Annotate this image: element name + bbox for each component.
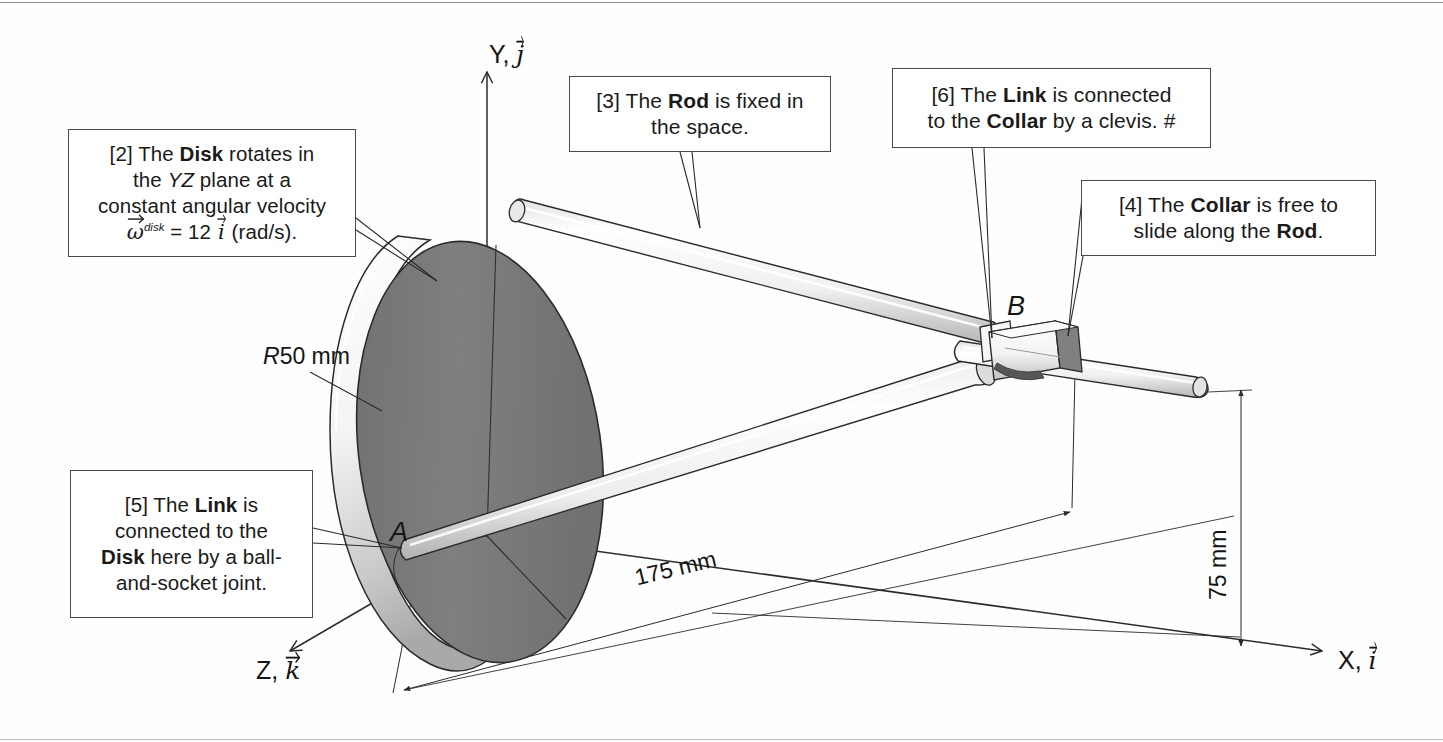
callout-5-line-1: [5] The Link is xyxy=(125,492,258,518)
axis-label-z: Z, k xyxy=(256,656,300,685)
i-glyph: i xyxy=(217,220,226,244)
callout-4-line-1: [4] The Collar is free to xyxy=(1119,192,1338,218)
callout-2-line-3: constant angular velocity xyxy=(98,193,326,219)
callout-6-line-2: to the Collar by a clevis. # xyxy=(928,108,1176,134)
dim-75-value: 75 xyxy=(1205,574,1231,600)
j-glyph: j xyxy=(516,40,524,69)
omega-vector-symbol: ω xyxy=(127,219,144,245)
callout-3-line-1: [3] The Rod is fixed in xyxy=(596,88,803,114)
callout-4-line-2-pre: slide along the xyxy=(1134,219,1277,242)
callout-5-line-1-post: is xyxy=(237,493,258,516)
point-label-b: B xyxy=(1007,291,1025,322)
axis-z-comma: , xyxy=(271,656,285,684)
k-unit-vector-symbol: k xyxy=(285,656,300,685)
callout-5-term-link: Link xyxy=(195,493,238,516)
radius-prefix: R xyxy=(263,343,280,369)
callout-5-line-3-post: here by a ball- xyxy=(145,545,282,568)
callout-6-line-1: [6] The Link is connected xyxy=(931,82,1171,108)
radius-unit: mm xyxy=(312,343,350,369)
axis-x xyxy=(487,536,1322,651)
point-label-a: A xyxy=(390,517,408,548)
formula-equals: = xyxy=(170,220,182,243)
callout-5-line-4: and-socket joint. xyxy=(116,570,267,596)
callout-3-term-rod: Rod xyxy=(668,89,709,112)
callout-2-plane-yz: YZ xyxy=(168,168,194,191)
i-unit-vector-symbol: i xyxy=(217,219,226,245)
axis-y-letter: Y xyxy=(489,40,502,68)
callout-box-3: [3] The Rod is fixed in the space. xyxy=(569,76,831,152)
callout-box-5: [5] The Link is connected to the Disk he… xyxy=(70,470,313,618)
callout-box-2: [2] The Disk rotates in the YZ plane at … xyxy=(68,129,356,257)
axis-label-x: X, i xyxy=(1338,646,1377,675)
callout-4-term-collar: Collar xyxy=(1191,193,1251,216)
i-axis-unit-vector-symbol: i xyxy=(1369,646,1377,675)
callout-3-line-1-pre: [3] The xyxy=(596,89,668,112)
dim-75-space xyxy=(1205,568,1231,574)
k-glyph: k xyxy=(285,656,300,685)
callout-6-line-1-pre: [6] The xyxy=(931,83,1003,106)
callout-6-line-2-pre: to the xyxy=(928,109,987,132)
callout-2-line-2-post: plane at a xyxy=(194,168,291,191)
callout-box-4: [4] The Collar is free to slide along th… xyxy=(1081,180,1376,256)
dimension-label-radius: R50 mm xyxy=(263,343,350,370)
axis-y-comma: , xyxy=(502,40,516,68)
callout-5-term-disk: Disk xyxy=(101,545,145,568)
callout-5-line-1-pre: [5] The xyxy=(125,493,195,516)
callout-3-line-2: the space. xyxy=(651,114,749,140)
callout-3-line-1-post: is fixed in xyxy=(709,89,804,112)
dimension-75mm xyxy=(1208,390,1252,646)
callout-4-term-rod: Rod xyxy=(1276,219,1317,242)
callout-6-term-link: Link xyxy=(1003,83,1047,106)
callout-5-line-2: connected to the xyxy=(115,518,268,544)
rod-upper-member xyxy=(507,199,1000,344)
figure-canvas: [2] The Disk rotates in the YZ plane at … xyxy=(0,0,1443,742)
disk xyxy=(330,225,629,679)
callout-6-line-2-post: by a clevis. # xyxy=(1047,109,1176,132)
omega-superscript-disk: disk xyxy=(144,221,164,233)
callout-4-line-1-pre: [4] The xyxy=(1119,193,1191,216)
axis-label-y: Y, j xyxy=(489,40,524,69)
callout-5-line-3: Disk here by a ball- xyxy=(101,544,282,570)
callout-4-line-2-post: . xyxy=(1318,219,1324,242)
dimension-label-75mm: 75 mm xyxy=(1205,530,1232,600)
callout-4-line-2: slide along the Rod. xyxy=(1134,218,1324,244)
callout-2-line-1-post: rotates in xyxy=(223,142,314,165)
i-axis-glyph: i xyxy=(1369,646,1377,675)
callout-2-line-2-pre: the xyxy=(133,168,168,191)
callout-6-line-1-post: is connected xyxy=(1047,83,1172,106)
callout-4-line-1-post: is free to xyxy=(1251,193,1338,216)
callout-2-term-disk: Disk xyxy=(180,142,224,165)
formula-units: (rad/s) xyxy=(232,220,292,243)
callout-2-line-1-pre: [2] The xyxy=(110,142,180,165)
axis-z-letter: Z xyxy=(256,656,271,684)
callout-2-line-1: [2] The Disk rotates in xyxy=(110,141,315,167)
formula-period: . xyxy=(291,220,297,243)
axis-x-letter: X xyxy=(1338,646,1355,674)
j-unit-vector-symbol: j xyxy=(516,40,524,69)
dim-75-unit: mm xyxy=(1205,530,1231,568)
callout-2-line-2: the YZ plane at a xyxy=(133,167,291,193)
radius-value: 50 xyxy=(280,343,306,369)
callout-6-term-collar: Collar xyxy=(987,109,1047,132)
omega-glyph: ω xyxy=(127,220,144,244)
callout-box-6: [6] The Link is connected to the Collar … xyxy=(892,68,1211,148)
formula-magnitude: 12 xyxy=(188,220,211,243)
callout-2-formula: ω disk = 12 i (rad/s). xyxy=(127,219,298,245)
axis-x-comma: , xyxy=(1355,646,1369,674)
